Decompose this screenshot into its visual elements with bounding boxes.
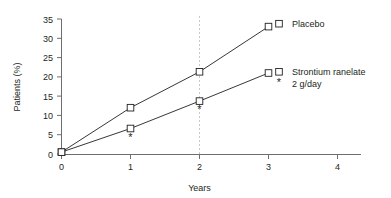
line-chart: 35 30 25 20 15 10 5 0 0 1 2 3 4 Patients…	[0, 0, 391, 198]
chart-figure: 35 30 25 20 15 10 5 0 0 1 2 3 4 Patients…	[0, 0, 391, 198]
strontium-point-year3	[265, 70, 272, 77]
legend-star-marker: *	[277, 76, 282, 88]
x-tick-label-4: 4	[335, 162, 340, 172]
series-strontium-ranelate	[58, 70, 272, 156]
legend-strontium-label-line1: Strontium ranelate	[292, 67, 366, 77]
legend-strontium-label-line2: 2 g/day	[292, 79, 322, 89]
legend-strontium-marker	[276, 69, 283, 76]
y-tick-label-10: 10	[43, 111, 53, 121]
y-axis-title: Patients (%)	[12, 62, 22, 111]
placebo-point-year3	[265, 23, 272, 30]
strontium-line	[62, 73, 269, 152]
legend-placebo-label: Placebo	[292, 19, 325, 29]
y-tick-label-15: 15	[43, 92, 53, 102]
y-tick-label-0: 0	[48, 150, 53, 160]
y-tick-label-5: 5	[48, 130, 53, 140]
x-tick-labels: 0 1 2 3 4	[59, 162, 340, 172]
y-tick-label-35: 35	[43, 15, 53, 25]
strontium-point-year0	[58, 149, 65, 156]
x-axis-title: Years	[188, 183, 211, 193]
legend-placebo-marker	[276, 20, 283, 27]
significance-star-year2: *	[197, 103, 202, 115]
placebo-point-year2	[196, 69, 203, 76]
y-tick-labels: 35 30 25 20 15 10 5 0	[43, 15, 53, 160]
y-tick-label-30: 30	[43, 34, 53, 44]
x-tick-label-2: 2	[197, 162, 202, 172]
x-tick-label-3: 3	[266, 162, 271, 172]
placebo-line	[62, 27, 269, 153]
placebo-point-year1	[127, 104, 134, 111]
significance-markers: * *	[128, 103, 202, 143]
significance-star-year1: *	[128, 131, 133, 143]
legend-strontium-ranelate: * Strontium ranelate 2 g/day	[276, 67, 366, 89]
x-tick-label-0: 0	[59, 162, 64, 172]
legend-placebo: Placebo	[276, 19, 325, 29]
x-tick-label-1: 1	[128, 162, 133, 172]
series-placebo	[58, 23, 272, 155]
y-tick-label-20: 20	[43, 72, 53, 82]
y-tick-label-25: 25	[43, 53, 53, 63]
